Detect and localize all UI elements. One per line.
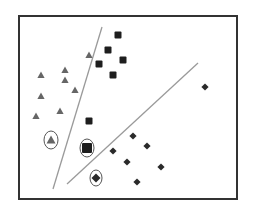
triangle-marker: [61, 76, 68, 82]
triangle-marker: [37, 71, 44, 77]
square-marker: [82, 143, 92, 153]
diamond-marker: [129, 132, 136, 139]
diamond-marker: [143, 142, 150, 149]
diamond-marker: [133, 178, 140, 185]
plot-frame: [19, 16, 237, 199]
decision-boundaries: [53, 27, 198, 189]
triangle-marker: [71, 86, 78, 92]
square-marker: [96, 61, 103, 68]
triangle-marker: [85, 51, 92, 57]
square-marker: [105, 47, 112, 54]
triangle-marker: [32, 112, 39, 118]
boundary-line-1: [53, 27, 102, 189]
diamond-marker: [157, 163, 164, 170]
square-marker: [86, 118, 93, 125]
diamond-marker: [92, 174, 101, 183]
square-marker: [115, 32, 122, 39]
classification-diagram: [0, 0, 254, 216]
diamond-marker: [123, 158, 130, 165]
triangle-marker: [37, 92, 44, 98]
square-marker: [110, 72, 117, 79]
diamond-marker: [109, 147, 116, 154]
square-marker: [120, 57, 127, 64]
triangle-marker: [47, 136, 56, 144]
data-points: [32, 32, 208, 186]
triangle-marker: [56, 107, 63, 113]
diamond-marker: [201, 83, 208, 90]
triangle-marker: [61, 66, 68, 72]
